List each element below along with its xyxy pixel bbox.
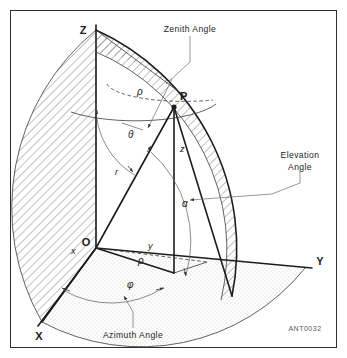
point-p-label: P bbox=[180, 90, 187, 102]
height-z-label: z bbox=[179, 144, 185, 154]
alpha-label: α bbox=[182, 198, 188, 209]
radius-vector-op bbox=[96, 107, 174, 248]
azimuth-angle-callout: Azimuth Angle bbox=[103, 330, 163, 340]
elevation-angle-callout-line1: Elevation bbox=[281, 150, 320, 160]
x-axis-label: X bbox=[35, 330, 43, 342]
rho-upper-label: ρ bbox=[136, 86, 143, 97]
y-axis-label: Y bbox=[316, 255, 324, 267]
angle-arc-theta bbox=[96, 105, 136, 176]
rho-lower-label: ρ bbox=[137, 255, 144, 266]
coord-x-label: x bbox=[70, 246, 76, 256]
reference-code: ANT0032 bbox=[288, 325, 321, 332]
phi-label: φ bbox=[127, 279, 134, 290]
elevation-angle-callout-line2: Angle bbox=[288, 162, 312, 172]
coord-y-label: y bbox=[147, 241, 153, 251]
origin-label: O bbox=[82, 236, 91, 248]
figure-root: Z Y X P O ρ θ r z α x y ρ φ Zenith Angle… bbox=[0, 0, 347, 358]
theta-label: θ bbox=[128, 129, 134, 140]
point-p-marker bbox=[171, 104, 176, 109]
radius-r-label: r bbox=[115, 167, 119, 177]
spherical-coordinate-diagram: Z Y X P O ρ θ r z α x y ρ φ Zenith Angle… bbox=[0, 0, 347, 358]
leader-elevation bbox=[190, 170, 300, 200]
zenith-angle-callout: Zenith Angle bbox=[164, 24, 217, 34]
z-axis-label: Z bbox=[80, 24, 87, 36]
